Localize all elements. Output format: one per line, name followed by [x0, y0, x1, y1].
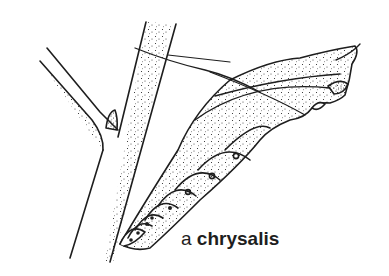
side-branch — [40, 48, 118, 150]
figure-caption: a chrysalis — [181, 229, 279, 248]
caption-article: a — [181, 228, 192, 249]
bud — [106, 110, 117, 130]
figure-canvas: a chrysalis — [0, 0, 389, 276]
caption-term: chrysalis — [197, 228, 279, 249]
